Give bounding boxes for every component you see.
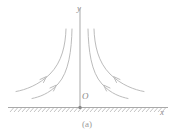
y-axis-label: y [77,4,81,13]
origin-dot [78,106,81,109]
field-line-right-outer [94,29,144,92]
origin-label: O [82,92,89,101]
figure-container: y x O (a) [0,0,174,138]
x-axis-label: x [160,108,164,117]
field-line-left-inner [32,29,72,99]
ground-hatching [10,108,166,112]
field-line-left-outer [16,29,66,92]
field-line-diagram [0,0,174,138]
figure-caption: (a) [0,120,174,129]
field-line-right-inner [88,29,128,99]
